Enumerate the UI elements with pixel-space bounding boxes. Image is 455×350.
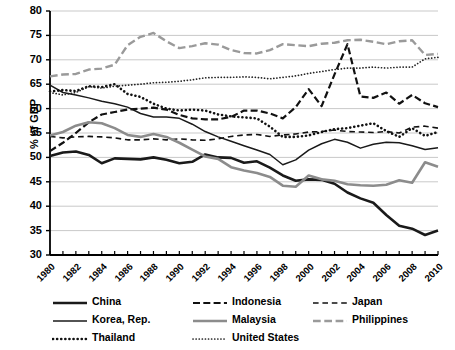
legend-swatch-philippines [312,313,348,325]
legend-item-malaysia[interactable]: Malaysia [192,310,276,327]
legend-label-korea: Korea, Rep. [92,313,150,325]
legend-swatch-thailand [52,331,88,343]
legend-item-indonesia[interactable]: Indonesia [192,292,281,309]
legend-label-china: China [92,295,121,307]
legend-item-united-states[interactable]: United States [192,328,299,345]
legend-item-philippines[interactable]: Philippines [312,310,408,327]
legend-row: ThailandUnited States [52,328,452,345]
legend-label-japan: Japan [352,295,382,307]
legend-item-korea[interactable]: Korea, Rep. [52,310,150,327]
legend-label-malaysia: Malaysia [232,313,276,325]
legend-row: Korea, Rep.MalaysiaPhilippines [52,310,452,327]
legend-label-indonesia: Indonesia [232,295,281,307]
legend-label-philippines: Philippines [352,313,408,325]
legend-swatch-japan [312,295,348,307]
legend-item-thailand[interactable]: Thailand [52,328,135,345]
legend-label-thailand: Thailand [92,331,135,343]
series-line-united-states [50,57,438,95]
chart-container: % of GDP 8075706560555045403530 19801982… [0,0,455,350]
legend-label-united-states: United States [232,331,299,343]
legend-swatch-united-states [192,331,228,343]
legend-swatch-korea [52,313,88,325]
series-line-philippines [50,33,438,76]
series-line-china [50,152,438,235]
legend-row: ChinaIndonesiaJapan [52,292,452,309]
chart-legend: ChinaIndonesiaJapanKorea, Rep.MalaysiaPh… [52,292,452,348]
legend-swatch-malaysia [192,313,228,325]
legend-swatch-indonesia [192,295,228,307]
legend-swatch-china [52,295,88,307]
legend-item-china[interactable]: China [52,292,121,309]
legend-item-japan[interactable]: Japan [312,292,382,309]
